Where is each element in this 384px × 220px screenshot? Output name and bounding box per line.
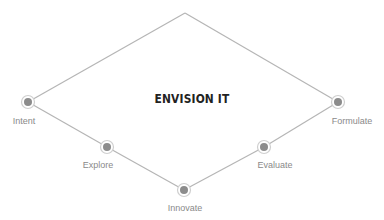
label-formulate: Formulate xyxy=(332,116,373,126)
edge-evaluate-formulate xyxy=(264,102,338,147)
diagram-title: ENVISION IT xyxy=(35,91,350,106)
node-intent xyxy=(22,96,35,109)
label-explore: Explore xyxy=(83,160,114,170)
node-dot-icon xyxy=(103,143,111,151)
envision-it-diagram: ENVISION IT Intent Explore Innovate Eval… xyxy=(0,0,384,220)
diamond-shape xyxy=(0,0,384,220)
node-dot-icon xyxy=(180,186,188,194)
edge-apex-formulate xyxy=(185,13,338,102)
edge-intent-apex xyxy=(28,13,185,102)
edge-explore-innovate xyxy=(107,147,184,190)
label-evaluate: Evaluate xyxy=(257,160,292,170)
label-intent: Intent xyxy=(13,116,36,126)
node-dot-icon xyxy=(260,143,268,151)
edge-innovate-evaluate xyxy=(184,147,264,190)
edge-intent-explore xyxy=(28,102,107,147)
label-innovate: Innovate xyxy=(168,203,203,213)
node-evaluate xyxy=(258,141,271,154)
node-innovate xyxy=(178,184,191,197)
node-dot-icon xyxy=(24,98,32,106)
node-explore xyxy=(101,141,114,154)
